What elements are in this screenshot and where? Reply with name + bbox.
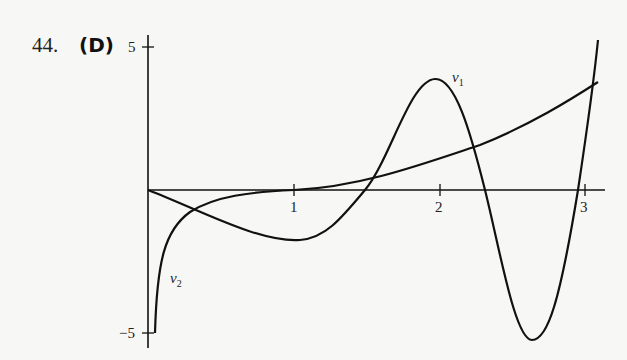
x-tick-1: 1: [290, 199, 298, 215]
chart: 5 −5 1 2 3 v1 v2: [0, 0, 627, 360]
series-v2-label: v2: [170, 270, 182, 289]
y-tick-5: 5: [128, 39, 136, 55]
series-v2-line: [155, 82, 598, 333]
x-tick-2: 2: [435, 199, 443, 215]
x-tick-3: 3: [580, 199, 588, 215]
y-tick-neg5: −5: [119, 325, 135, 341]
series-v1-label: v1: [452, 69, 464, 88]
